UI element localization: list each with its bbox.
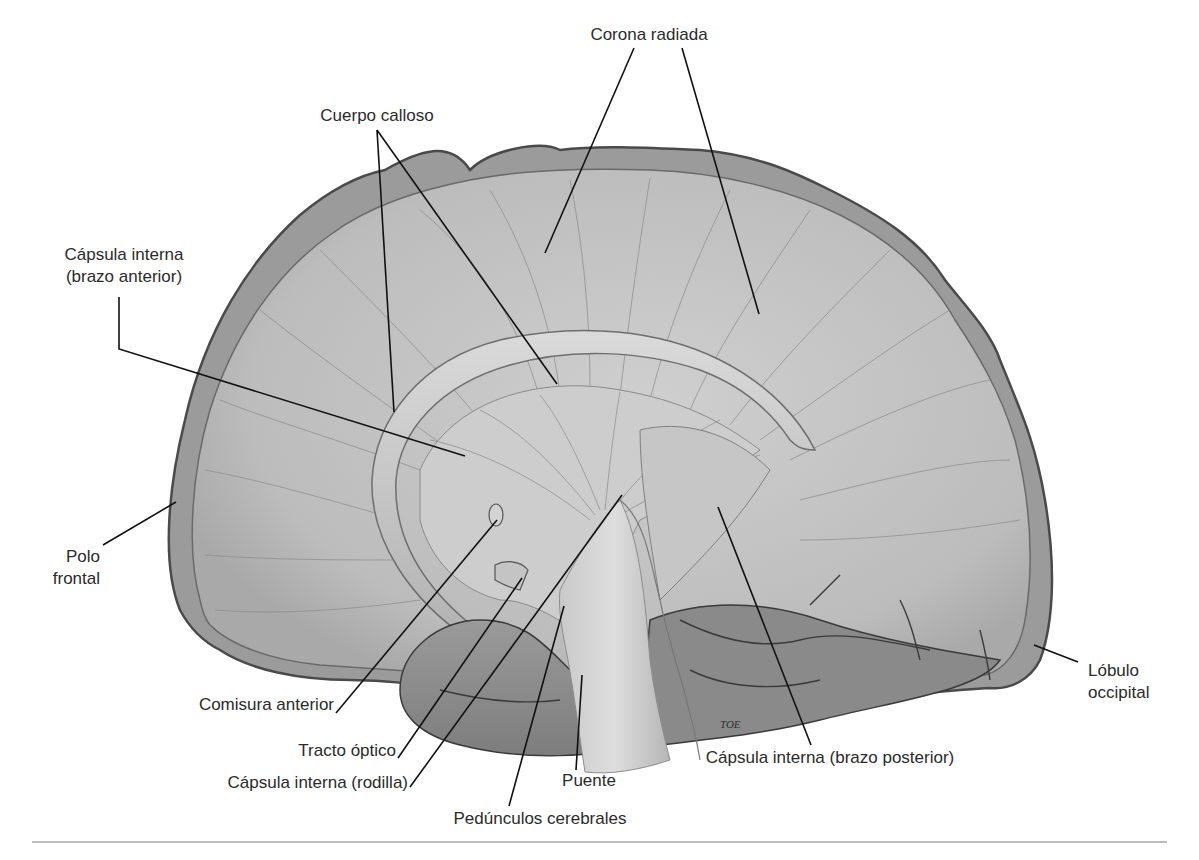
label-polo-frontal-line1: Polo — [20, 546, 100, 568]
label-polo-frontal: Polo frontal — [20, 546, 100, 590]
label-puente: Puente — [544, 770, 634, 792]
label-lobulo-occipital-line1: Lóbulo — [1088, 660, 1188, 682]
label-pedunculos-cerebrales: Pedúnculos cerebrales — [440, 808, 640, 830]
label-corona-radiada: Corona radiada — [574, 24, 724, 46]
label-polo-frontal-line2: frontal — [20, 568, 100, 590]
label-lobulo-occipital: Lóbulo occipital — [1088, 660, 1188, 704]
leader-polo-frontal — [103, 502, 176, 545]
label-lobulo-occipital-line2: occipital — [1088, 682, 1188, 704]
label-capsula-interna-brazo-anterior-line2: (brazo anterior) — [44, 266, 204, 288]
label-comisura-anterior: Comisura anterior — [150, 694, 334, 716]
bottom-divider — [32, 841, 1167, 843]
artist-signature: TOE — [720, 718, 741, 730]
label-capsula-interna-brazo-anterior-line1: Cápsula interna — [44, 244, 204, 266]
brain-dissection-illustration: TOE — [0, 0, 1199, 860]
label-capsula-interna-rodilla: Cápsula interna (rodilla) — [170, 772, 408, 794]
label-cuerpo-calloso: Cuerpo calloso — [296, 105, 458, 127]
label-capsula-interna-brazo-posterior: Cápsula interna (brazo posterior) — [680, 747, 980, 769]
label-tracto-optico: Tracto óptico — [250, 740, 396, 762]
label-capsula-interna-brazo-anterior: Cápsula interna (brazo anterior) — [44, 244, 204, 288]
